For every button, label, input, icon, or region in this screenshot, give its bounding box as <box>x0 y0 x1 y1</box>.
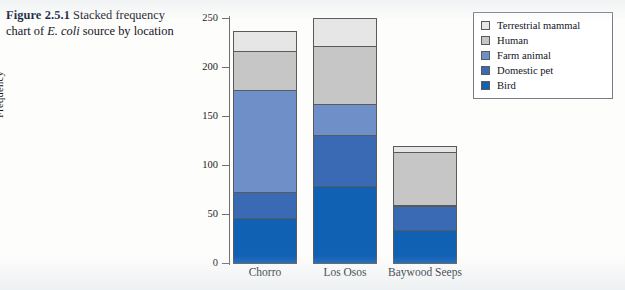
legend-item-bird[interactable]: Bird <box>481 78 606 93</box>
bar-segment-los-osos-terrestrial-mammal[interactable] <box>313 18 377 46</box>
legend-swatch-bird <box>481 81 490 90</box>
y-ticklabel-250: 250 <box>176 12 218 23</box>
bar-segment-chorro-terrestrial-mammal[interactable] <box>233 31 297 53</box>
legend-label-terrestrial-mammal: Terrestrial mammal <box>497 20 580 31</box>
y-axis-label: Frequency <box>0 71 5 118</box>
bar-los-osos[interactable] <box>313 18 377 263</box>
bar-segment-los-osos-bird[interactable] <box>313 186 377 264</box>
legend-label-farm-animal: Farm animal <box>497 50 551 61</box>
chart-legend: Terrestrial mammal Human Farm animal Dom… <box>473 12 613 99</box>
y-tick-100 <box>222 165 230 166</box>
bar-segment-los-osos-human[interactable] <box>313 46 377 106</box>
y-tick-200 <box>222 67 230 68</box>
bar-segment-baywood-seeps-bird[interactable] <box>393 230 457 264</box>
bar-segment-chorro-farm-animal[interactable] <box>233 90 297 193</box>
y-ticklabel-50: 50 <box>176 208 218 219</box>
y-tick-250 <box>222 18 230 19</box>
bar-segment-chorro-domestic-pet[interactable] <box>233 192 297 219</box>
y-ticklabel-200: 200 <box>176 61 218 72</box>
bar-chorro[interactable] <box>233 31 297 263</box>
bar-segment-los-osos-farm-animal[interactable] <box>313 104 377 135</box>
legend-swatch-domestic-pet <box>481 66 490 75</box>
y-ticklabel-150: 150 <box>176 110 218 121</box>
bar-segment-baywood-seeps-domestic-pet[interactable] <box>393 206 457 231</box>
bar-segment-chorro-bird[interactable] <box>233 218 297 264</box>
y-tick-150 <box>222 116 230 117</box>
legend-label-bird: Bird <box>497 80 516 91</box>
legend-label-human: Human <box>497 35 528 46</box>
legend-swatch-farm-animal <box>481 51 490 60</box>
x-ticklabel-baywood-seeps: Baywood Seeps <box>365 266 485 278</box>
bar-segment-chorro-human[interactable] <box>233 51 297 90</box>
y-axis-line <box>229 16 230 265</box>
bar-baywood-seeps[interactable] <box>393 146 457 263</box>
legend-label-domestic-pet: Domestic pet <box>497 65 553 76</box>
legend-swatch-terrestrial-mammal <box>481 21 490 30</box>
legend-item-terrestrial-mammal[interactable]: Terrestrial mammal <box>481 18 606 33</box>
legend-item-human[interactable]: Human <box>481 33 606 48</box>
y-tick-0 <box>222 263 230 264</box>
bar-segment-los-osos-domestic-pet[interactable] <box>313 135 377 187</box>
legend-item-farm-animal[interactable]: Farm animal <box>481 48 606 63</box>
y-ticklabel-100: 100 <box>176 159 218 170</box>
y-tick-50 <box>222 214 230 215</box>
legend-item-domestic-pet[interactable]: Domestic pet <box>481 63 606 78</box>
bar-segment-baywood-seeps-human[interactable] <box>393 152 457 206</box>
legend-swatch-human <box>481 36 490 45</box>
